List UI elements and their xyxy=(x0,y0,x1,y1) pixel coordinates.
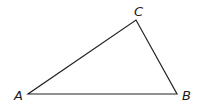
triangle-abc xyxy=(28,20,177,94)
vertex-label-b: B xyxy=(182,88,191,103)
vertex-label-a: A xyxy=(13,88,23,103)
vertex-label-c: C xyxy=(134,4,144,19)
triangle-diagram: A B C xyxy=(0,0,198,107)
